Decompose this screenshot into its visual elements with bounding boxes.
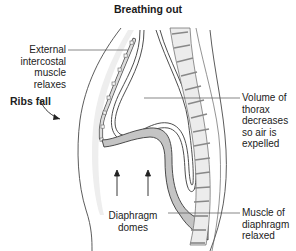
label-diaphragm-domes: Diaphragm domes	[103, 210, 163, 233]
label-muscle-diaphragm: Muscle of diaphragm relaxed	[242, 207, 296, 242]
spine	[170, 28, 221, 251]
label-volume-thorax: Volume of thorax decreases so air is exp…	[242, 92, 296, 150]
label-external-intercostal: External intercostal muscle relaxes	[10, 44, 66, 90]
label-ribs-fall: Ribs fall	[10, 96, 51, 108]
diaphragm-up-arrows-icon	[115, 170, 151, 196]
